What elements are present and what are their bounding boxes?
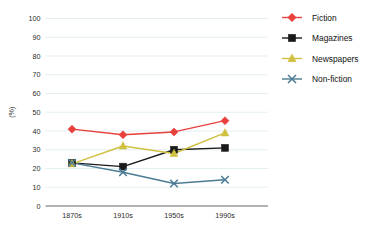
y-tick-label: 50 [33,108,41,117]
square-marker [222,144,229,151]
y-tick-label: 30 [33,145,41,154]
y-tick-label: 0 [37,202,41,211]
x-tick-label: 1870s [62,211,82,220]
legend-label: Newspapers [312,54,359,64]
legend-item-magazines[interactable]: Magazines [282,33,353,43]
x-tick-label: 1910s [113,211,133,220]
y-axis-title-label: (%) [7,107,16,118]
y-tick-label: 20 [33,164,41,173]
y-axis-title: (%) [7,107,16,118]
line-chart: 0102030405060708090100 1870s1910s1950s19… [0,0,383,238]
y-tick-label: 80 [33,52,41,61]
x-tick-label: 1950s [164,211,184,220]
y-tick-label: 10 [33,183,41,192]
y-tick-label: 70 [33,70,41,79]
y-tick-label: 40 [33,127,41,136]
x-tick-label: 1990s [215,211,235,220]
legend-label: Magazines [312,33,353,43]
y-tick-label: 60 [33,89,41,98]
chart-canvas: 0102030405060708090100 1870s1910s1950s19… [0,0,383,238]
legend-label: Fiction [312,13,337,23]
y-tick-label: 90 [33,33,41,42]
y-tick-label: 100 [29,14,41,23]
legend-label: Non-fiction [312,74,352,84]
square-marker [288,34,295,41]
